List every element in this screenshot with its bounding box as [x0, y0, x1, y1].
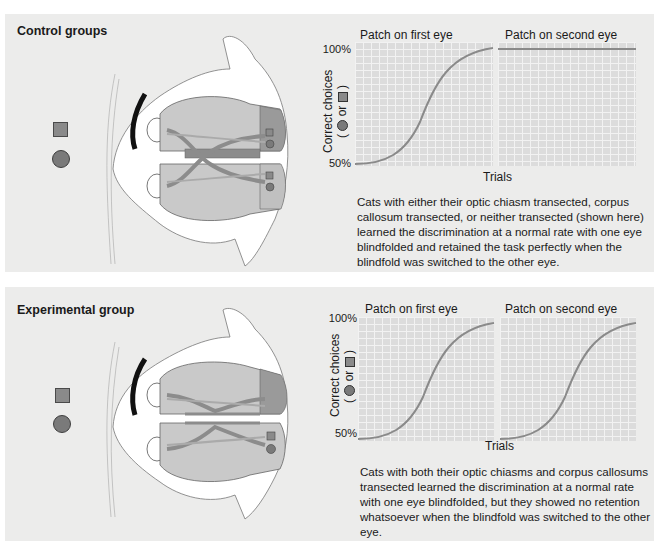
chart-title-first-eye: Patch on first eye	[365, 302, 458, 316]
y-tick-50: 50%	[315, 157, 351, 169]
y-axis-label: Correct choices	[328, 334, 342, 417]
control-groups-panel: Control groups Patch on first eye Patc	[5, 14, 654, 272]
circle-stimulus-icon	[52, 150, 70, 168]
y-axis-label: Correct choices	[321, 70, 335, 153]
y-tick-100: 100%	[321, 312, 357, 324]
learning-curve-first-eye	[358, 317, 494, 441]
y-tick-100: 100%	[315, 43, 351, 55]
experimental-group-panel: Experimental group Patch on first eye Pa…	[5, 287, 654, 541]
caption-control: Cats with either their optic chiasm tran…	[357, 194, 647, 269]
cat-brain-diagram	[105, 34, 305, 269]
circle-legend-icon	[337, 120, 348, 131]
x-axis-label: Trials	[485, 439, 514, 453]
square-stimulus-icon	[55, 388, 70, 403]
y-axis-sublabel: ( or )	[342, 350, 356, 403]
circle-legend-icon	[344, 385, 355, 396]
chart-title-second-eye: Patch on second eye	[505, 302, 617, 316]
caption-experimental: Cats with both their optic chiasms and c…	[360, 464, 650, 539]
chart-title-first-eye: Patch on first eye	[360, 28, 453, 42]
y-tick-50: 50%	[321, 427, 357, 439]
learning-curve-first-eye	[355, 42, 493, 166]
square-stimulus-icon	[53, 122, 68, 137]
circle-stimulus-icon	[53, 415, 71, 433]
learning-curve-second-eye	[500, 317, 636, 441]
panel-title: Control groups	[17, 24, 107, 38]
square-legend-icon	[338, 92, 348, 102]
y-axis-sublabel: ( or )	[335, 85, 349, 138]
square-legend-icon	[345, 357, 355, 367]
retention-curve-second-eye	[498, 42, 636, 166]
cat-brain-diagram-split	[105, 307, 305, 522]
x-axis-label: Trials	[483, 170, 512, 184]
chart-title-second-eye: Patch on second eye	[505, 28, 617, 42]
